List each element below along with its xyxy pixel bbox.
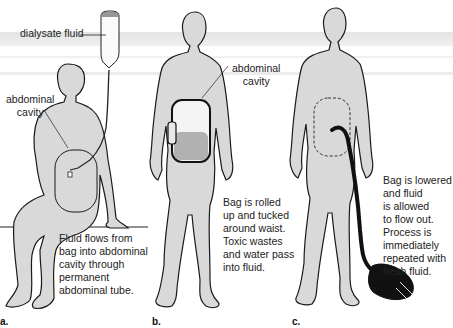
caption-panel-a: Fluid flows from bag into abdominal cavi… — [59, 232, 148, 297]
label-dialysate-fluid: dialysate fluid — [20, 27, 84, 40]
panel-letter-a: a. — [0, 316, 8, 327]
panel-letter-c: c. — [292, 316, 300, 327]
caption-panel-b: Bag is rolled up and tucked around waist… — [223, 196, 294, 274]
label-abdominal-cavity-b: abdominal cavity — [232, 62, 280, 88]
panel-letter-b: b. — [152, 316, 161, 327]
label-abdominal-cavity-a: abdominal cavity — [6, 93, 54, 119]
caption-panel-c: Bag is lowered and fluid is allowed to f… — [383, 174, 452, 278]
panel-c-figure — [290, 8, 373, 306]
panel-b-figure — [150, 12, 233, 308]
